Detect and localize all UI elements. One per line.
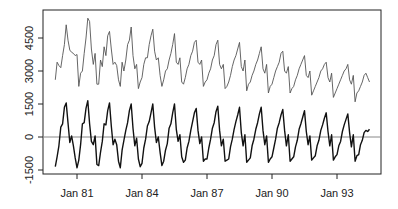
y-tick-label: -1500 [23,156,35,184]
series-layer [55,18,369,168]
x-tick-label: Jan 90 [255,187,288,199]
y-tick-label: 3000 [23,59,35,83]
series-line-detrended [55,101,369,168]
x-tick-label: Jan 93 [320,187,353,199]
chart: -15000150030004500 Jan 81Jan 84Jan 87Jan… [0,0,398,209]
y-tick-label: 1500 [23,92,35,116]
x-axis: Jan 81Jan 84Jan 87Jan 90Jan 93 [60,174,353,199]
y-axis: -15000150030004500 [23,26,43,184]
x-tick-label: Jan 81 [60,187,93,199]
series-line-original [55,18,369,102]
x-tick-label: Jan 87 [190,187,223,199]
y-tick-label: 0 [23,134,35,140]
y-tick-label: 4500 [23,26,35,50]
plot-frame [43,10,381,174]
x-tick-label: Jan 84 [125,187,158,199]
